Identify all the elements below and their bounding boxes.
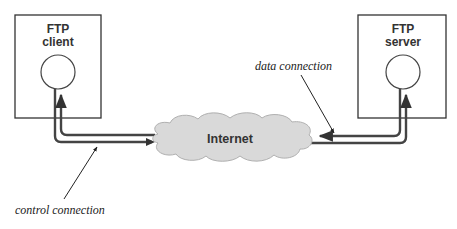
data-connection-label: data connection <box>255 59 332 73</box>
control-connection-pointer <box>64 147 97 199</box>
client-process-circle <box>41 55 75 89</box>
server-process-circle <box>386 55 420 89</box>
control-connection-label: control connection <box>15 203 105 217</box>
client-label-line1: FTP <box>47 22 70 36</box>
ftp-diagram: FTP client FTP server Internet data conn… <box>0 0 457 229</box>
server-label-line1: FTP <box>392 22 415 36</box>
control-connection-annotation: control connection <box>15 147 105 217</box>
ftp-client-node: FTP client <box>15 15 101 118</box>
server-label-line2: server <box>385 35 421 49</box>
cloud-label: Internet <box>207 132 254 146</box>
client-label-line2: client <box>42 35 73 49</box>
internet-cloud: Internet <box>153 113 312 162</box>
ftp-server-node: FTP server <box>358 15 446 118</box>
